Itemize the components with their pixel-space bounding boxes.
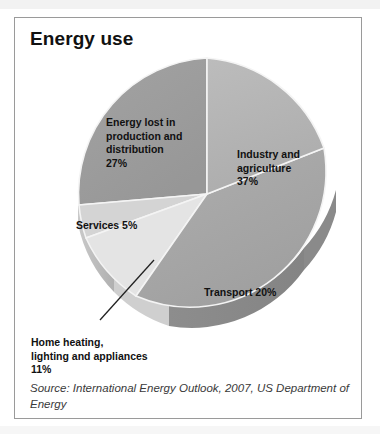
slice-label-home-line2: lighting and appliances <box>31 350 148 364</box>
slice-label-services: Services 5% <box>76 219 137 233</box>
slice-label-home-heating: Home heating, lighting and appliances 11… <box>31 336 148 377</box>
pie-chart-svg <box>48 24 348 334</box>
page-bottom-shading <box>0 426 380 434</box>
chart-card: Energy use <box>14 17 362 419</box>
slice-label-home-line1: Home heating, <box>31 336 148 350</box>
slice-value-energy-lost: 27% <box>106 157 182 171</box>
screenshot-root: Energy use <box>0 0 380 434</box>
slice-label-energy-lost-line2: production and <box>106 130 182 144</box>
slice-label-energy-lost-line1: Energy lost in <box>106 116 182 130</box>
slice-label-industry-line1: Industry and <box>237 148 300 162</box>
slice-label-industry-agriculture: Industry and agriculture 37% <box>237 148 300 189</box>
pie-chart <box>48 24 348 334</box>
slice-label-transport: Transport 20% <box>204 286 276 300</box>
page-top-shading <box>0 0 380 9</box>
slice-value-industry: 37% <box>237 175 300 189</box>
slice-value-home: 11% <box>31 363 148 377</box>
source-caption: Source: International Energy Outlook, 20… <box>30 380 350 412</box>
slice-label-energy-lost-line3: distribution <box>106 143 182 157</box>
slice-label-energy-lost: Energy lost in production and distributi… <box>106 116 182 170</box>
slice-label-industry-line2: agriculture <box>237 162 300 176</box>
